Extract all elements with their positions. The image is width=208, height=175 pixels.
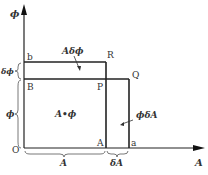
- brace-delta-phi-label: δϕ: [0, 66, 14, 76]
- point-R: R: [107, 50, 114, 60]
- region-main-label: A•ϕ: [54, 109, 77, 119]
- point-B: B: [27, 82, 34, 92]
- x-axis-arrow-icon: [193, 145, 205, 151]
- y-axis-label: ϕ: [10, 8, 20, 19]
- point-a: a: [131, 138, 137, 148]
- point-P: P: [97, 82, 103, 92]
- brace-A-label: A: [59, 158, 67, 168]
- origin-label: O: [12, 145, 19, 155]
- area-diagram: ϕ A O b R B P Q A a A•ϕ Aδϕ ϕδA δϕ ϕ A δ…: [0, 0, 208, 175]
- region-right-strip-label: ϕδA: [136, 110, 157, 120]
- diagram-canvas: ϕ A O b R B P Q A a A•ϕ Aδϕ ϕδA δϕ ϕ A δ…: [0, 0, 208, 175]
- brace-phi-label: ϕ: [6, 109, 15, 119]
- point-Q: Q: [132, 70, 139, 80]
- brace-delta-phi: [15, 63, 21, 79]
- pointer-arrow-icon: [120, 122, 124, 126]
- brace-A: [25, 151, 105, 157]
- point-b: b: [27, 52, 33, 62]
- brace-delta-A: [107, 151, 128, 157]
- region-top-strip-label: Aδϕ: [61, 46, 84, 56]
- point-A: A: [96, 138, 104, 148]
- x-axis-label: A: [194, 157, 203, 168]
- y-axis-arrow-icon: [21, 4, 27, 15]
- brace-phi: [15, 80, 21, 148]
- pointer-arrow-icon: [77, 66, 81, 71]
- brace-delta-A-label: δA: [109, 158, 123, 168]
